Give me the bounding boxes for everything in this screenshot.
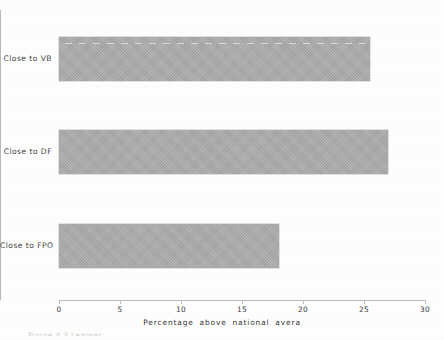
category-label-close-to-df: Close to DF — [0, 147, 52, 156]
x-tick-label-0: 0 — [56, 305, 61, 314]
figure-caption: Figure 4.3 Learner — [28, 331, 102, 340]
bar-close-to-df — [59, 130, 388, 174]
x-tick-mark-10 — [181, 300, 182, 304]
figure-root: Close to VBClose to DFClose to FPO 05101… — [0, 0, 444, 340]
x-tick-label-20: 20 — [298, 305, 308, 314]
bar-close-to-fpo — [59, 224, 279, 268]
x-tick-mark-30 — [425, 300, 426, 304]
x-axis-title: Percentage above national avera — [0, 318, 444, 327]
x-tick-mark-0 — [59, 300, 60, 304]
category-label-close-to-fpo: Close to FPO — [0, 241, 52, 250]
x-tick-mark-15 — [242, 300, 243, 304]
x-tick-label-25: 25 — [359, 305, 369, 314]
bar-close-to-vb — [59, 37, 370, 81]
x-tick-label-30: 30 — [420, 305, 430, 314]
category-label-close-to-vb: Close to VB — [0, 54, 52, 63]
x-tick-mark-25 — [364, 300, 365, 304]
x-tick-label-10: 10 — [176, 305, 186, 314]
x-tick-label-15: 15 — [237, 305, 247, 314]
x-tick-label-5: 5 — [117, 305, 122, 314]
x-tick-mark-5 — [120, 300, 121, 304]
x-tick-mark-20 — [303, 300, 304, 304]
